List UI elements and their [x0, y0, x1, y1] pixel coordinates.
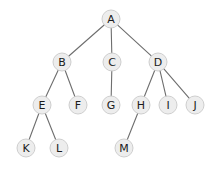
tree-edge-b-f — [65, 70, 75, 98]
tree-node-d[interactable]: D — [149, 53, 167, 71]
tree-node-b[interactable]: B — [53, 53, 71, 71]
tree-node-label-k: K — [22, 142, 30, 155]
tree-node-label-i: I — [166, 99, 169, 112]
tree-node-label-e: E — [39, 99, 46, 112]
tree-node-j[interactable]: J — [186, 96, 204, 114]
tree-edge-e-l — [45, 112, 56, 140]
tree-edge-c-g — [111, 70, 112, 97]
tree-node-label-f: F — [75, 99, 81, 112]
tree-node-label-g: G — [107, 99, 116, 112]
tree-node-label-m: M — [119, 142, 129, 155]
tree-node-label-h: H — [137, 99, 145, 112]
tree-node-label-c: C — [108, 56, 116, 69]
tree-node-h[interactable]: H — [132, 96, 150, 114]
tree-edge-e-k — [29, 113, 39, 141]
tree-edge-a-c — [111, 27, 112, 54]
tree-edge-d-i — [160, 70, 166, 97]
tree-edge-h-m — [127, 112, 138, 140]
tree-node-label-b: B — [58, 56, 66, 69]
tree-node-i[interactable]: I — [159, 96, 177, 114]
tree-edge-a-d — [117, 24, 152, 56]
tree-edge-b-e — [45, 69, 58, 98]
tree-node-label-j: J — [192, 99, 196, 112]
tree-diagram-canvas: ABCDEFGHIJKLM — [0, 0, 220, 169]
tree-diagram: ABCDEFGHIJKLM — [0, 0, 220, 169]
tree-node-c[interactable]: C — [103, 53, 121, 71]
tree-node-m[interactable]: M — [115, 139, 133, 157]
tree-node-a[interactable]: A — [102, 10, 120, 28]
tree-node-l[interactable]: L — [50, 139, 68, 157]
tree-edge-d-j — [163, 68, 190, 99]
tree-node-g[interactable]: G — [102, 96, 120, 114]
tree-edge-d-h — [144, 69, 155, 97]
tree-edge-a-b — [68, 24, 105, 56]
tree-node-f[interactable]: F — [69, 96, 87, 114]
tree-node-label-d: D — [154, 56, 162, 69]
edges-group — [29, 24, 190, 140]
tree-node-label-l: L — [56, 142, 63, 155]
tree-node-k[interactable]: K — [17, 139, 35, 157]
tree-node-label-a: A — [107, 13, 115, 26]
tree-node-e[interactable]: E — [33, 96, 51, 114]
